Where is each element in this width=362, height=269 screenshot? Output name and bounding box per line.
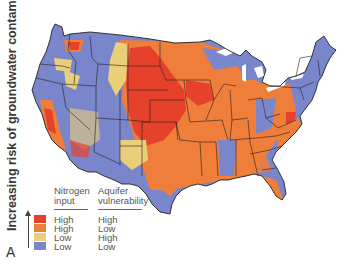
legend-swatch bbox=[34, 242, 46, 250]
legend-swatch bbox=[34, 233, 46, 241]
panel-letter: A bbox=[6, 244, 15, 260]
arrow-up-icon bbox=[28, 214, 29, 248]
legend-header-aquifer-line2: vulnerability bbox=[98, 196, 148, 206]
y-axis-label: Increasing risk of groundwater contamina… bbox=[5, 21, 21, 231]
legend-swatch bbox=[34, 215, 46, 223]
legend-header-aquifer: Aquifer vulnerability bbox=[98, 186, 148, 206]
legend-divider bbox=[98, 209, 142, 210]
legend-nitrogen-value: Low bbox=[54, 241, 71, 252]
legend-aquifer-value: Low bbox=[98, 241, 115, 252]
legend-header-nitrogen: Nitrogen input bbox=[54, 186, 90, 206]
legend-divider bbox=[54, 209, 88, 210]
legend-header-nitrogen-line2: input bbox=[54, 196, 90, 206]
legend-swatch bbox=[34, 224, 46, 232]
